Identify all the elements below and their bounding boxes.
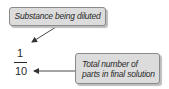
denominator-callout: Total number of parts in final solution: [75, 53, 160, 84]
numerator-callout: Substance being diluted: [9, 7, 106, 26]
fraction-bar: [14, 62, 27, 63]
numerator-callout-text: Substance being diluted: [14, 11, 100, 21]
denominator-callout-line-1: Total number of: [82, 59, 159, 69]
numerator-arrow: [32, 27, 56, 42]
fraction-denominator: 10: [11, 65, 31, 77]
fraction-numerator: 1: [10, 47, 30, 59]
denominator-callout-line-2: parts in final solution: [82, 69, 159, 79]
